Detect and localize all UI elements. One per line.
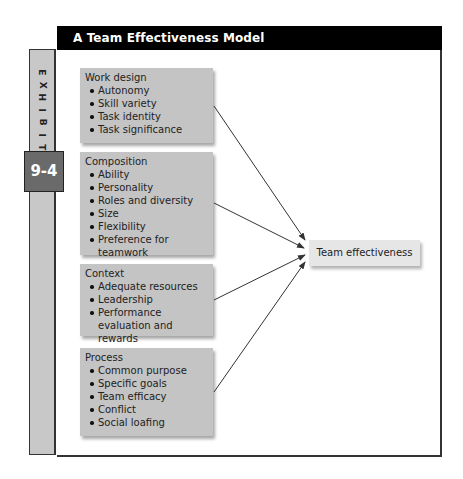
factor-title: Process [85, 351, 209, 364]
exhibit-letter: H [36, 93, 49, 101]
factor-item: Performance evaluation and rewards [89, 306, 209, 345]
factor-item: Preference for teamwork [89, 233, 209, 259]
factor-list: Ability Personality Roles and diversity … [85, 168, 209, 259]
factor-list: Autonomy Skill variety Task identity Tas… [85, 84, 209, 136]
factor-title: Context [85, 267, 209, 280]
factor-item: Skill variety [89, 97, 209, 110]
exhibit-letter: E [36, 69, 49, 75]
exhibit-letter: B [36, 119, 49, 126]
exhibit-letter: I [36, 133, 49, 136]
factor-item: Ability [89, 168, 209, 181]
factor-item: Autonomy [89, 84, 209, 97]
factor-item: Size [89, 207, 209, 220]
factor-item: Common purpose [89, 364, 209, 377]
factor-item: Team efficacy [89, 390, 209, 403]
factor-item: Roles and diversity [89, 194, 209, 207]
factor-item: Leadership [89, 293, 209, 306]
factor-item: Task significance [89, 123, 209, 136]
factor-item: Social loafing [89, 416, 209, 429]
factor-box-process: Process Common purpose Specific goals Te… [80, 348, 213, 436]
factor-title: Composition [85, 155, 209, 168]
exhibit-letter: I [36, 108, 49, 111]
factor-item: Adequate resources [89, 280, 209, 293]
factor-item: Personality [89, 181, 209, 194]
factor-list: Common purpose Specific goals Team effic… [85, 364, 209, 429]
exhibit-title: A Team Effectiveness Model [57, 26, 442, 50]
outcome-box-team-effectiveness: Team effectiveness [309, 240, 420, 266]
exhibit-sidebar: E X H I B I T [29, 49, 56, 455]
exhibit-vertical-label: E X H I B I T [30, 66, 54, 154]
exhibit-number-badge: 9-4 [24, 151, 64, 192]
factor-item: Flexibility [89, 220, 209, 233]
factor-box-work-design: Work design Autonomy Skill variety Task … [80, 68, 213, 143]
factor-item: Conflict [89, 403, 209, 416]
factor-box-composition: Composition Ability Personality Roles an… [80, 152, 213, 255]
factor-title: Work design [85, 71, 209, 84]
factor-item: Task identity [89, 110, 209, 123]
exhibit-letter: T [36, 144, 49, 150]
exhibit-letter: X [36, 81, 49, 88]
factor-list: Adequate resources Leadership Performanc… [85, 280, 209, 345]
factor-box-context: Context Adequate resources Leadership Pe… [80, 264, 213, 336]
factor-item: Specific goals [89, 377, 209, 390]
